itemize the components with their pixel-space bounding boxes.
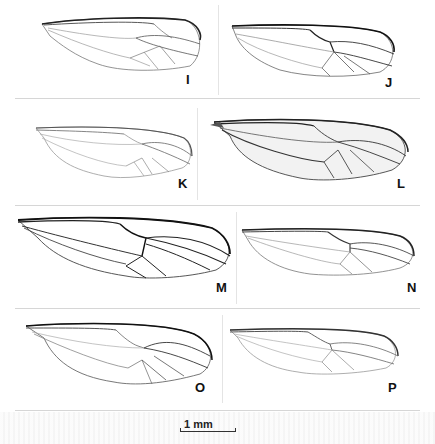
wing-drawing-j — [230, 22, 395, 82]
wing-drawing-l — [210, 116, 410, 182]
row-divider — [15, 308, 420, 309]
wing-panel-k — [34, 124, 194, 180]
wing-drawing-m — [16, 214, 232, 280]
wing-panel-o — [24, 320, 214, 386]
scale-bar-label: 1 mm — [184, 418, 213, 430]
panel-label-o: O — [195, 380, 205, 395]
panel-label-i: I — [186, 72, 190, 87]
wing-drawing-i — [40, 14, 200, 74]
column-divider — [222, 315, 223, 403]
wing-drawing-k — [34, 124, 194, 180]
row-divider — [15, 98, 420, 99]
column-divider — [236, 212, 237, 304]
column-divider — [218, 5, 219, 95]
row-divider — [15, 410, 420, 411]
row-divider — [15, 205, 420, 206]
wing-panel-p — [228, 326, 398, 378]
panel-label-k: K — [178, 176, 187, 191]
scale-bar-tick — [180, 428, 181, 432]
wing-panel-m — [16, 214, 232, 280]
wing-panel-n — [240, 226, 415, 278]
panel-label-m: M — [216, 280, 227, 295]
wing-drawing-o — [24, 320, 214, 386]
wing-drawing-p — [228, 326, 398, 378]
panel-label-p: P — [388, 380, 397, 395]
panel-label-n: N — [407, 280, 416, 295]
wing-drawing-n — [240, 226, 415, 278]
column-divider — [197, 108, 198, 200]
scale-bar-tick — [235, 428, 236, 432]
panel-label-l: L — [397, 176, 405, 191]
scale-bar: 1 mm — [178, 418, 240, 434]
wing-panel-j — [230, 22, 395, 82]
panel-label-j: J — [385, 75, 392, 90]
scale-bar-line — [180, 431, 236, 432]
wing-panel-i — [40, 14, 200, 74]
wing-panel-l — [210, 116, 410, 182]
